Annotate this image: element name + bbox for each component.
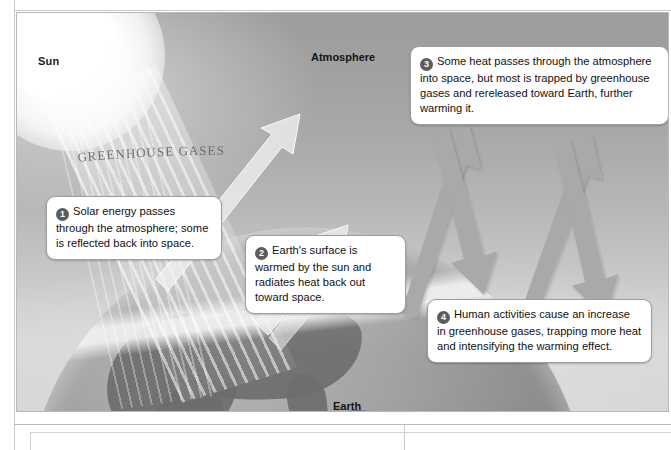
callout-2-badge: 2 <box>255 247 268 260</box>
callout-1-badge: 1 <box>56 208 69 221</box>
callout-4-badge: 4 <box>437 311 450 324</box>
callout-step-4: 4Human activities cause an increase in g… <box>427 299 652 363</box>
sun-label: Sun <box>38 55 59 67</box>
caption-column-divider <box>404 425 405 450</box>
callout-step-1: 1Solar energy passes through the atmosph… <box>46 196 222 260</box>
callout-1-text: Solar energy passes through the atmosphe… <box>56 205 208 249</box>
greenhouse-effect-diagram: GREENHOUSE GASES Sun Atmosphere Earth 1S… <box>16 12 669 412</box>
callout-step-3: 3Some heat passes through the atmosphere… <box>410 46 669 125</box>
caption-box-top-rule <box>30 432 671 433</box>
callout-4-text: Human activities cause an increase in gr… <box>437 308 641 352</box>
atmosphere-label: Atmosphere <box>311 51 375 63</box>
callout-3-badge: 3 <box>420 58 433 71</box>
earth-label: Earth <box>333 400 361 412</box>
callout-2-text: Earth's surface is warmed by the sun and… <box>255 244 371 303</box>
page-rule-vertical-left <box>14 0 15 450</box>
caption-box-left-rule <box>30 432 31 450</box>
page-rule-horizontal-bottom <box>14 424 671 425</box>
callout-3-text: Some heat passes through the atmosphere … <box>420 55 652 114</box>
page-canvas: GREENHOUSE GASES Sun Atmosphere Earth 1S… <box>0 0 671 450</box>
page-rule-horizontal-top <box>14 10 671 11</box>
callout-step-2: 2Earth's surface is warmed by the sun an… <box>245 235 406 314</box>
